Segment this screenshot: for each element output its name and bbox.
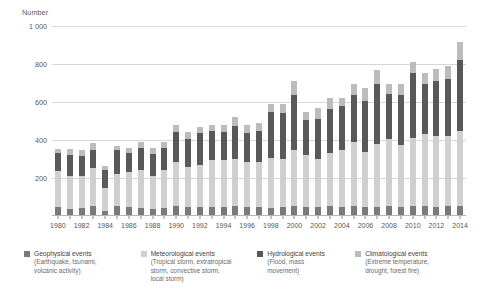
legend-item[interactable]: Meteorological events(Tropical storm, ex… [141, 250, 250, 283]
bar-column[interactable]: 2006 [360, 26, 372, 216]
bar-column[interactable] [395, 26, 407, 216]
bar-segment [351, 84, 357, 95]
bar-column[interactable] [135, 26, 147, 216]
bar-column[interactable] [111, 26, 123, 216]
x-axis-tickmark [164, 216, 165, 219]
bar-column[interactable]: 2012 [431, 26, 443, 216]
bar-stack [55, 149, 61, 216]
bar-stack [351, 84, 357, 216]
bar-stack [232, 117, 238, 216]
bar-column[interactable] [371, 26, 383, 216]
bar-stack [114, 146, 120, 216]
bar-column[interactable]: 2004 [336, 26, 348, 216]
bar-column[interactable]: 1984 [99, 26, 111, 216]
bar-stack [209, 125, 215, 216]
x-axis-tickmark [318, 216, 319, 219]
bar-column[interactable] [277, 26, 289, 216]
bar-segment [138, 170, 144, 208]
bar-column[interactable]: 1994 [218, 26, 230, 216]
bar-column[interactable] [442, 26, 454, 216]
bar-segment [161, 142, 167, 149]
legend-item[interactable]: Geophysical events(Earthquake, tsunami,v… [24, 250, 133, 275]
bar-segment [90, 143, 96, 150]
bar-segment [232, 117, 238, 126]
bar-column[interactable]: 1982 [76, 26, 88, 216]
legend-item[interactable]: Hydrological events(Flood, massmovement) [257, 250, 347, 275]
bar-stack [67, 149, 73, 216]
bar-segment [291, 81, 297, 95]
bar-segment [114, 174, 120, 205]
bar-segment [114, 150, 120, 174]
bar-segment [209, 160, 215, 207]
bar-segment [374, 70, 380, 84]
x-axis-tick-label: 2012 [429, 222, 445, 229]
bar-segment [185, 167, 191, 207]
bar-segment [291, 95, 297, 150]
bar-column[interactable]: 1998 [265, 26, 277, 216]
bar-segment [433, 81, 439, 136]
bar-column[interactable]: 2014 [454, 26, 466, 216]
bar-segment [173, 132, 179, 162]
bar-stack [422, 73, 428, 216]
bar-segment [79, 176, 85, 208]
bar-column[interactable]: 2002 [312, 26, 324, 216]
bar-segment [161, 170, 167, 208]
x-axis-tickmark [247, 216, 248, 219]
bar-segment [280, 159, 286, 207]
y-axis-tick-label: 800 [35, 60, 47, 69]
x-axis-tickmark [329, 216, 330, 219]
bar-segment [256, 162, 262, 208]
bar-column[interactable]: 1986 [123, 26, 135, 216]
bar-stack [90, 143, 96, 216]
bar-column[interactable]: 2000 [289, 26, 301, 216]
bar-segment [303, 120, 309, 154]
bar-column[interactable] [229, 26, 241, 216]
legend-sublabel: movement) [267, 267, 325, 275]
x-axis-tickmark [448, 216, 449, 219]
bar-column[interactable] [300, 26, 312, 216]
y-axis-tick-label: 1 000 [29, 22, 47, 31]
x-axis-tick-label: 1982 [74, 222, 90, 229]
x-axis-tick-label: 1992 [192, 222, 208, 229]
bar-segment [67, 155, 73, 176]
x-axis-tickmark [199, 216, 200, 219]
bar-segment [197, 165, 203, 208]
bar-column[interactable]: 1988 [147, 26, 159, 216]
bar-segment [327, 109, 333, 154]
bar-column[interactable] [87, 26, 99, 216]
bar-segment [244, 133, 250, 162]
bar-column[interactable]: 2008 [383, 26, 395, 216]
bar-column[interactable] [64, 26, 76, 216]
bar-stack [339, 98, 345, 216]
bar-column[interactable] [158, 26, 170, 216]
bar-column[interactable] [324, 26, 336, 216]
x-axis-tickmark [436, 216, 437, 219]
bar-segment [102, 188, 108, 212]
bar-segment [386, 84, 392, 94]
bar-stack [410, 62, 416, 216]
bar-stack [362, 88, 368, 216]
bar-stack [398, 84, 404, 216]
bar-segment [351, 142, 357, 206]
bar-column[interactable] [419, 26, 431, 216]
legend-item[interactable]: Climatological events(Extreme temperatur… [355, 250, 460, 275]
bar-segment [374, 84, 380, 144]
x-axis-tick-label: 2002 [310, 222, 326, 229]
x-axis-tickmark [424, 216, 425, 219]
bar-segment [445, 136, 451, 206]
bar-column[interactable] [253, 26, 265, 216]
bar-column[interactable]: 2010 [407, 26, 419, 216]
bar-column[interactable]: 1992 [194, 26, 206, 216]
bar-segment [339, 106, 345, 150]
bar-column[interactable]: 1980 [52, 26, 64, 216]
x-axis-tickmark [152, 216, 153, 219]
bar-segment [185, 139, 191, 167]
plot-area: 2004006008001 000 1980198219841986198819… [52, 26, 466, 216]
bar-column[interactable]: 1996 [241, 26, 253, 216]
bar-column[interactable]: 1990 [170, 26, 182, 216]
bar-segment [362, 152, 368, 207]
bar-column[interactable] [206, 26, 218, 216]
bar-column[interactable] [348, 26, 360, 216]
bar-column[interactable] [182, 26, 194, 216]
x-axis-tickmark [353, 216, 354, 219]
